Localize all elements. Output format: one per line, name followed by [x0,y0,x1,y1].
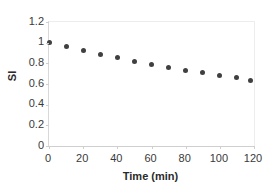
x-axis-title: Time (min) [48,170,253,182]
y-tick-label: 0 [12,140,44,151]
y-tick-label: 0.2 [12,119,44,130]
x-axis-tick-labels: 020406080100120 [0,152,278,166]
x-axis-tick-mark [254,146,255,149]
y-axis-tick-mark [46,84,49,85]
data-point [98,52,103,57]
x-axis-tick-mark [152,146,153,149]
data-points-layer [49,22,254,146]
y-tick-label: 1.2 [12,16,44,27]
data-point [149,62,154,67]
data-point [200,70,205,75]
y-axis-tick-mark [46,105,49,106]
data-point [234,75,239,80]
x-axis-tick-mark [186,146,187,149]
y-axis-tick-mark [46,63,49,64]
y-tick-label: 1 [12,36,44,47]
x-axis-tick-mark [83,146,84,149]
y-tick-label: 0.6 [12,78,44,89]
data-point [183,68,188,73]
data-point [115,55,120,60]
y-axis-tick-mark [46,43,49,44]
y-tick-label: 0.4 [12,98,44,109]
x-axis-tick-mark [220,146,221,149]
x-axis-tick-mark [117,146,118,149]
data-point [81,48,86,53]
y-axis-tick-mark [46,125,49,126]
plot-area [48,21,255,147]
si-vs-time-scatter-chart: SI 00.20.40.60.811.2 020406080100120 Tim… [0,0,278,193]
x-tick-label: 120 [233,152,273,164]
data-point [166,65,171,70]
data-point [248,78,253,83]
data-point [64,44,69,49]
x-axis-tick-mark [49,146,50,149]
data-point [132,59,137,64]
y-tick-label: 0.8 [12,57,44,68]
data-point [217,73,222,78]
y-axis-tick-mark [46,22,49,23]
